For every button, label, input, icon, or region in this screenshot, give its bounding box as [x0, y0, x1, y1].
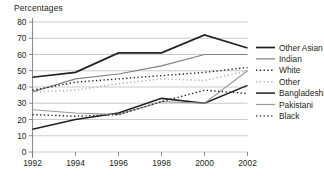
chart-legend: Other AsianIndianWhiteOtherBangladeshiPa…: [256, 43, 324, 121]
y-tick-label: 0: [22, 147, 27, 157]
chart-figure: Percentages 01020304050607080 1992199419…: [0, 0, 324, 180]
y-tick-label: 30: [17, 98, 27, 108]
x-tick-label: 1994: [66, 158, 85, 168]
series-line: [33, 85, 248, 129]
x-axis-ticks: 199219941996199820002002: [23, 152, 257, 168]
y-tick-label: 80: [17, 17, 27, 27]
legend-label: Pakistani: [279, 100, 313, 110]
y-tick-label: 40: [17, 82, 27, 92]
series-line: [33, 71, 248, 115]
data-series: [33, 35, 248, 129]
y-tick-label: 10: [17, 131, 27, 141]
x-tick-label: 2002: [238, 158, 257, 168]
legend-label: Indian: [279, 54, 302, 64]
legend-label: Other Asian: [279, 43, 323, 53]
x-tick-label: 1996: [109, 158, 128, 168]
x-tick-label: 1992: [23, 158, 42, 168]
legend-label: Bangladeshi: [279, 88, 324, 98]
y-tick-label: 20: [17, 115, 27, 125]
y-tick-label: 70: [17, 33, 27, 43]
x-tick-label: 2000: [195, 158, 214, 168]
legend-label: Other: [279, 77, 300, 87]
legend-label: Black: [279, 111, 300, 121]
y-axis-ticks: 01020304050607080: [17, 17, 32, 157]
x-tick-label: 1998: [152, 158, 171, 168]
gridlines: [33, 22, 248, 152]
y-tick-label: 60: [17, 50, 27, 60]
y-tick-label: 50: [17, 66, 27, 76]
line-chart-plot: 01020304050607080 1992199419961998200020…: [0, 0, 324, 180]
legend-label: White: [279, 65, 301, 75]
